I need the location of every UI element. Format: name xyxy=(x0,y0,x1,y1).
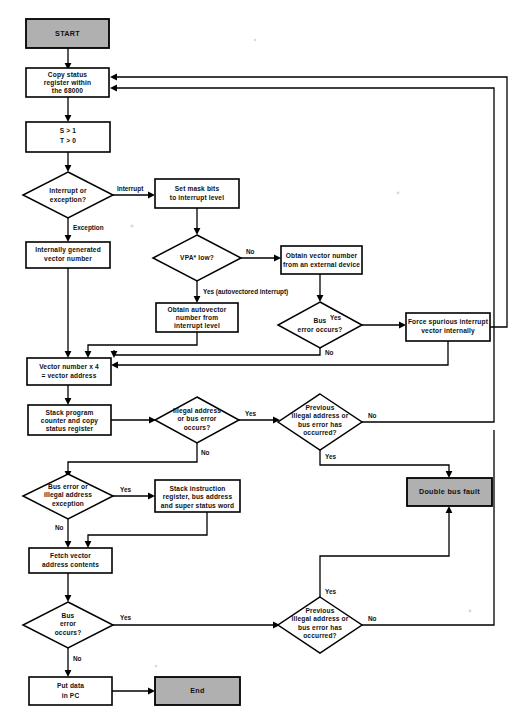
flowchart-canvas: START Copy status register within the 68… xyxy=(0,0,529,725)
node-put-data-pc[interactable]: Put data in PC xyxy=(29,677,112,705)
node-interrupt-or-exception-line2: exception? xyxy=(50,196,86,204)
node-previous-illegal-2-line3: bus error has xyxy=(298,624,342,631)
node-stack-instruction-line1: Stack instruction xyxy=(169,485,225,492)
node-interrupt-or-exception-line1: Interrupt or xyxy=(49,187,87,195)
node-bus-error-occurs-2[interactable]: Bus error occurs? xyxy=(23,602,113,648)
node-set-mask-bits-line2: to interrupt level xyxy=(170,194,224,202)
node-stack-instruction-line2: register, bus address xyxy=(163,493,233,501)
edge-label-interrupt: Interrupt xyxy=(117,185,144,193)
node-illegal-or-bus-error-line3: occurs? xyxy=(184,424,211,431)
node-put-data-pc-line2: in PC xyxy=(62,692,80,699)
node-obtain-autovector-line1: Obtain autovector xyxy=(168,306,227,313)
edge-label-bus-err1-yes: Yes xyxy=(330,314,341,321)
node-bus-error-occurs-2-line3: occurs? xyxy=(55,629,82,636)
node-previous-illegal-1-line1: Previous xyxy=(305,404,334,411)
edge-label-prev1-no: No xyxy=(368,412,377,419)
node-obtain-vector-external[interactable]: Obtain vector number from an external de… xyxy=(281,246,362,274)
node-bus-or-illegal-exception[interactable]: Bus error or illegal address exception xyxy=(23,474,113,519)
node-previous-illegal-2-line1: Previous xyxy=(305,607,334,614)
node-copy-status[interactable]: Copy status register within the 68000 xyxy=(26,68,109,97)
connector-lines xyxy=(65,48,507,694)
node-set-flags[interactable]: S > 1 T > 0 xyxy=(26,122,110,152)
node-force-spurious-line2: vector internally xyxy=(421,327,475,335)
node-start-label: START xyxy=(55,29,80,38)
edge-label-prev2-yes: Yes xyxy=(325,588,336,595)
node-previous-illegal-1-line3: bus error has xyxy=(298,421,342,428)
node-stack-instruction[interactable]: Stack instruction register, bus address … xyxy=(155,480,240,512)
node-set-mask-bits[interactable]: Set mask bits to interrupt level xyxy=(155,179,239,208)
edge-label-bus-ill-no: No xyxy=(55,524,64,531)
node-previous-illegal-1[interactable]: Previous illegal address or bus error ha… xyxy=(278,394,362,450)
node-end-label: End xyxy=(190,686,204,695)
flowchart-page: START Copy status register within the 68… xyxy=(0,0,529,725)
edge-label-bus-ill-yes: Yes xyxy=(120,486,131,493)
edge-label-prev1-yes: Yes xyxy=(325,453,336,460)
node-previous-illegal-2[interactable]: Previous illegal address or bus error ha… xyxy=(278,597,362,653)
node-double-bus-fault[interactable]: Double bus fault xyxy=(407,478,492,506)
node-stack-pc[interactable]: Stack program counter and copy status re… xyxy=(28,405,111,435)
node-bus-error-occurs-1-line1: Bus xyxy=(314,317,327,324)
node-obtain-autovector[interactable]: Obtain autovector number from interrupt … xyxy=(156,303,238,332)
node-stack-instruction-line3: and super status word xyxy=(161,502,235,510)
node-obtain-autovector-line3: interrupt level xyxy=(174,322,220,330)
node-copy-status-line2: register within xyxy=(44,79,91,87)
node-fetch-vector-line2: address contents xyxy=(42,561,99,568)
edge-label-bus-err2-no: No xyxy=(73,655,82,662)
node-vector-address-line1: Vector number x 4 xyxy=(39,363,99,370)
node-bus-error-occurs-2-line1: Bus xyxy=(62,612,75,619)
node-bus-or-illegal-line1: Bus error or xyxy=(48,483,88,490)
node-internally-generated-line2: vector number xyxy=(44,255,92,262)
edge-label-illegal-yes: Yes xyxy=(245,410,256,417)
edge-label-vpa-no: No xyxy=(246,248,255,255)
node-bus-or-illegal-line2: illegal address xyxy=(44,491,92,499)
node-bus-error-occurs-1-line2: error occurs? xyxy=(298,326,343,333)
node-previous-illegal-2-line2: illegal address or xyxy=(292,615,349,623)
node-set-mask-bits-line1: Set mask bits xyxy=(175,185,220,192)
node-vpa-low-line1: VPA* low? xyxy=(180,254,214,261)
node-copy-status-line3: the 68000 xyxy=(52,87,84,94)
node-force-spurious-line1: Force spurious interrupt xyxy=(408,318,489,326)
node-illegal-or-bus-error-line1: Illegal address xyxy=(173,407,221,415)
node-start[interactable]: START xyxy=(26,19,109,48)
node-stack-pc-line3: status register xyxy=(46,425,94,433)
node-illegal-or-bus-error[interactable]: Illegal address or bus error occurs? xyxy=(155,397,239,443)
node-bus-or-illegal-line3: exception xyxy=(52,500,84,508)
node-copy-status-line1: Copy status xyxy=(48,71,88,79)
edge-label-exception: Exception xyxy=(73,224,104,232)
node-force-spurious[interactable]: Force spurious interrupt vector internal… xyxy=(406,313,490,341)
node-fetch-vector[interactable]: Fetch vector address contents xyxy=(29,548,112,573)
node-vector-address[interactable]: Vector number x 4 = vector address xyxy=(27,358,111,385)
node-double-bus-fault-label: Double bus fault xyxy=(419,487,480,496)
node-stack-pc-line1: Stack program xyxy=(45,409,93,417)
node-illegal-or-bus-error-line2: or bus error xyxy=(177,415,216,422)
edge-label-bus-err1-no: No xyxy=(325,349,334,356)
node-bus-error-occurs-1[interactable]: Bus error occurs? xyxy=(278,302,362,348)
node-end[interactable]: End xyxy=(155,677,240,705)
node-fetch-vector-line1: Fetch vector xyxy=(50,552,91,559)
node-set-flags-line2: T > 0 xyxy=(60,137,76,144)
node-obtain-vector-external-line1: Obtain vector number xyxy=(286,252,358,259)
node-vpa-low[interactable]: VPA* low? xyxy=(153,235,241,281)
node-bus-error-occurs-2-line2: error xyxy=(60,620,76,627)
paper-artifacts xyxy=(130,39,471,668)
node-obtain-autovector-line2: number from xyxy=(176,314,218,321)
edge-label-prev2-no: No xyxy=(368,615,377,622)
edge-label-vpa-yes: Yes (autovectored interrupt) xyxy=(203,288,288,296)
node-previous-illegal-2-line4: occurred? xyxy=(303,632,337,639)
node-vector-address-line2: = vector address xyxy=(42,372,97,379)
node-obtain-vector-external-line2: from an external device xyxy=(283,261,360,268)
node-internally-generated-line1: Internally generated xyxy=(35,246,101,254)
node-stack-pc-line2: counter and copy xyxy=(41,417,99,425)
edge-label-illegal-no: No xyxy=(201,449,210,456)
node-previous-illegal-1-line4: occurred? xyxy=(303,429,337,436)
node-put-data-pc-line1: Put data xyxy=(57,682,84,689)
node-previous-illegal-1-line2: illegal address or xyxy=(292,412,349,420)
node-internally-generated-vector[interactable]: Internally generated vector number xyxy=(26,242,110,268)
node-set-flags-line1: S > 1 xyxy=(60,127,77,134)
node-interrupt-or-exception[interactable]: Interrupt or exception? xyxy=(23,172,113,218)
edge-label-bus-err2-yes: Yes xyxy=(120,614,131,621)
